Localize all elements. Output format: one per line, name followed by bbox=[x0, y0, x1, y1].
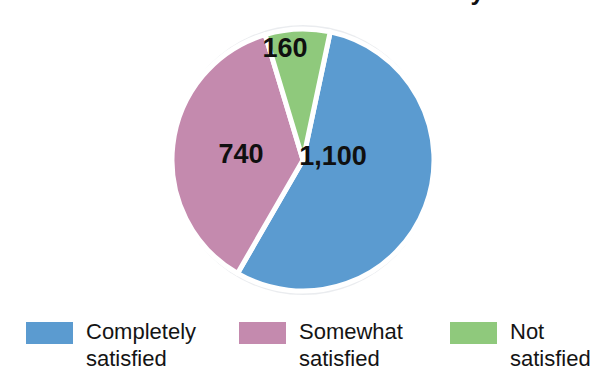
pie-label-somewhat-satisfied: 740 bbox=[218, 139, 263, 169]
legend-label-somewhat-satisfied: Somewhat satisfied bbox=[299, 318, 403, 372]
legend-swatch-not-satisfied bbox=[450, 322, 497, 344]
pie-label-not-satisfied: 160 bbox=[262, 33, 307, 63]
legend-swatch-somewhat-satisfied bbox=[239, 322, 286, 344]
pie-chart: 1,100 740 160 bbox=[155, 8, 447, 308]
legend-swatch-completely-satisfied bbox=[26, 322, 73, 344]
pie-chart-svg: 1,100 740 160 bbox=[155, 8, 447, 308]
legend-item-not-satisfied[interactable]: Not satisfied bbox=[450, 318, 591, 372]
legend-label-completely-satisfied: Completely satisfied bbox=[86, 318, 196, 372]
chart-legend: Completely satisfied Somewhat satisfied … bbox=[0, 318, 608, 387]
legend-label-not-satisfied: Not satisfied bbox=[510, 318, 591, 372]
legend-item-completely-satisfied[interactable]: Completely satisfied bbox=[26, 318, 196, 372]
pie-label-completely-satisfied: 1,100 bbox=[299, 141, 367, 171]
legend-item-somewhat-satisfied[interactable]: Somewhat satisfied bbox=[239, 318, 403, 372]
chart-title: Customer Satisfaction Survey bbox=[0, 0, 608, 6]
